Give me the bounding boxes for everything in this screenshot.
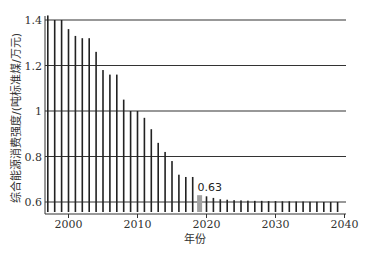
bar bbox=[268, 201, 270, 212]
y-tick-label: 1 bbox=[35, 105, 42, 118]
bar bbox=[151, 129, 153, 212]
x-tick-label: 2040 bbox=[331, 218, 359, 231]
bar bbox=[289, 201, 291, 212]
bar bbox=[164, 152, 166, 212]
bar bbox=[82, 38, 84, 212]
bar bbox=[206, 196, 208, 212]
bar bbox=[316, 202, 318, 212]
bar bbox=[226, 200, 228, 212]
bar bbox=[88, 38, 90, 212]
bar bbox=[192, 177, 194, 212]
bar bbox=[185, 177, 187, 212]
bar bbox=[337, 202, 339, 212]
bar bbox=[95, 52, 97, 212]
x-tick-label: 2030 bbox=[262, 218, 290, 231]
bar bbox=[261, 201, 263, 212]
x-tick-labels: 20002010202020302040 bbox=[55, 214, 359, 231]
x-tick-label: 2010 bbox=[124, 218, 152, 231]
y-tick-label: 1.4 bbox=[25, 14, 43, 27]
bar bbox=[178, 175, 180, 212]
bar bbox=[109, 75, 111, 212]
x-tick-label: 2020 bbox=[193, 218, 221, 231]
x-axis-title: 年份 bbox=[184, 232, 206, 246]
bar bbox=[323, 202, 325, 212]
highlight-bar bbox=[197, 195, 202, 212]
bar bbox=[220, 199, 222, 212]
bar bbox=[61, 20, 63, 212]
bar bbox=[54, 20, 56, 212]
y-tick-label: 1.2 bbox=[25, 60, 43, 73]
bar bbox=[102, 70, 104, 212]
bar bbox=[302, 202, 304, 212]
bar bbox=[68, 29, 70, 212]
bar bbox=[75, 36, 77, 212]
bar bbox=[130, 111, 132, 212]
highlight-annotation: 0.63 bbox=[198, 181, 223, 194]
axes bbox=[45, 16, 346, 214]
bar bbox=[171, 161, 173, 212]
bar bbox=[330, 202, 332, 212]
y-tick-label: 0.6 bbox=[25, 196, 43, 209]
bar bbox=[309, 202, 311, 212]
bar bbox=[47, 15, 49, 212]
bar bbox=[233, 200, 235, 212]
chart-canvas: 0.60.811.21.4 20002010202020302040 0.63 … bbox=[0, 0, 367, 256]
bar bbox=[275, 201, 277, 212]
x-tick-label: 2000 bbox=[55, 218, 83, 231]
bar bbox=[282, 201, 284, 212]
gridlines bbox=[45, 20, 346, 202]
bar bbox=[254, 201, 256, 212]
bar bbox=[295, 202, 297, 212]
bars bbox=[47, 15, 338, 212]
y-axis-title: 综合能源消费强度/(吨标准煤/万元) bbox=[9, 33, 23, 203]
bar bbox=[123, 100, 125, 212]
bar bbox=[247, 201, 249, 212]
y-tick-labels: 0.60.811.21.4 bbox=[25, 14, 43, 209]
bar bbox=[213, 198, 215, 212]
bar bbox=[137, 111, 139, 212]
bar bbox=[144, 118, 146, 212]
y-tick-label: 0.8 bbox=[25, 151, 43, 164]
bar bbox=[157, 143, 159, 212]
bar bbox=[240, 200, 242, 212]
bar bbox=[116, 75, 118, 212]
